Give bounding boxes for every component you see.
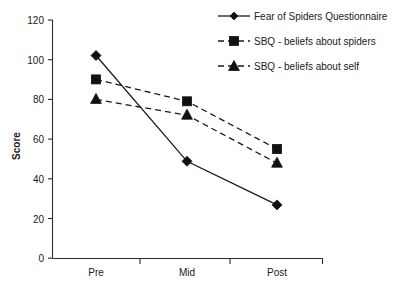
line-chart-figure: 120 100 80 60 40 20 0 Score Pre Mid Post [0, 0, 396, 287]
legend-label-1: Fear of Spiders Questionnaire [254, 11, 388, 22]
y-axis-title: Score [11, 132, 22, 160]
y-tick-label-0: 0 [38, 253, 44, 264]
y-tick-label-40: 40 [33, 174, 45, 185]
series-2-marker-pre [92, 75, 101, 84]
legend-item-1[interactable]: Fear of Spiders Questionnaire [218, 11, 388, 22]
legend-label-2: SBQ - beliefs about spiders [254, 36, 376, 47]
legend-label-3: SBQ - beliefs about self [254, 61, 359, 72]
series-2-marker-mid [183, 97, 192, 106]
series-1-marker-post [272, 200, 282, 210]
y-tick-label-60: 60 [33, 134, 45, 145]
x-tick-label-post: Post [267, 267, 287, 278]
legend-marker-square-icon [230, 37, 239, 46]
y-tick-label-100: 100 [27, 55, 44, 66]
y-tick-label-80: 80 [33, 94, 45, 105]
x-tick-labels: Pre Mid Post [88, 267, 287, 278]
y-tick-labels: 120 100 80 60 40 20 0 [27, 15, 44, 264]
x-tick-label-pre: Pre [88, 267, 104, 278]
y-tick-label-120: 120 [27, 15, 44, 26]
series-3-marker-pre [91, 93, 102, 103]
legend-marker-diamond-icon [230, 12, 238, 20]
chart-legend: Fear of Spiders Questionnaire SBQ - beli… [218, 11, 388, 72]
series-3-marker-mid [182, 109, 193, 119]
x-tick-label-mid: Mid [179, 267, 195, 278]
series-3-marker-post [272, 157, 283, 167]
chart-canvas: 120 100 80 60 40 20 0 Score Pre Mid Post [0, 0, 396, 287]
y-tick-label-20: 20 [33, 214, 45, 225]
legend-item-3[interactable]: SBQ - beliefs about self [218, 61, 359, 72]
series-fear-of-spiders-questionnaire [91, 51, 282, 210]
series-2-marker-post [273, 145, 282, 154]
series-1-line [96, 56, 277, 205]
legend-item-2[interactable]: SBQ - beliefs about spiders [218, 36, 376, 47]
series-3-line [96, 99, 277, 163]
axis-group [48, 20, 323, 264]
